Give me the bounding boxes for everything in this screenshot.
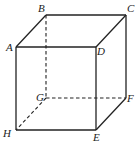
cube-diagram: A B C D E F G H (0, 0, 139, 148)
edge-ef (96, 98, 126, 130)
label-g: G (36, 91, 44, 103)
label-b: B (38, 2, 45, 14)
edge-cd (96, 15, 126, 47)
label-d: D (96, 45, 105, 57)
label-a: A (5, 41, 13, 53)
label-h: H (2, 127, 12, 139)
label-c: C (127, 2, 135, 14)
edge-ab (16, 15, 46, 47)
vertex-labels: A B C D E F G H (2, 2, 135, 143)
label-f: F (126, 92, 134, 104)
label-e: E (92, 131, 100, 143)
